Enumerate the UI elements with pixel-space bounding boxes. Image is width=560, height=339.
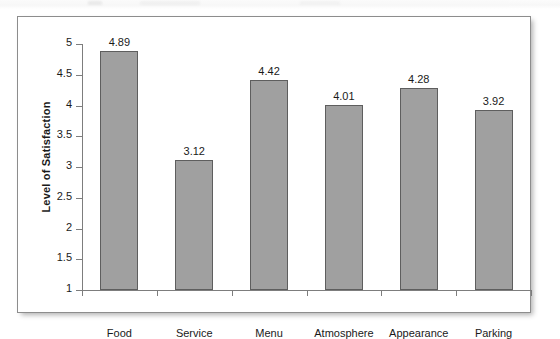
x-axis-category-label: Appearance — [389, 327, 448, 339]
x-axis-tick-mark — [381, 290, 382, 296]
y-axis-tick-label: 2 — [66, 221, 72, 233]
bar[interactable] — [400, 88, 438, 290]
y-axis-tick-label: 1.5 — [57, 251, 72, 263]
bar-group: 3.92Parking — [456, 44, 531, 290]
x-axis-tick-mark — [157, 290, 158, 296]
bar-chart-plot-area: Level of Satisfaction 11.522.533.544.55 … — [18, 17, 530, 312]
scan-artifact-strip — [0, 0, 560, 9]
bar[interactable] — [325, 105, 363, 290]
x-axis-category-label: Parking — [475, 327, 512, 339]
bar-group: 4.28Appearance — [381, 44, 456, 290]
y-axis-tick-label: 1 — [66, 282, 72, 294]
bar[interactable] — [100, 51, 138, 290]
y-axis-tick-label: 3.5 — [57, 128, 72, 140]
x-axis-tick-mark — [456, 290, 457, 296]
bar-group: 4.42Menu — [232, 44, 307, 290]
y-axis-tick-label: 4.5 — [57, 67, 72, 79]
bar-value-label: 4.89 — [109, 36, 130, 48]
bar-group: 3.12Service — [157, 44, 232, 290]
x-axis-category-label: Menu — [255, 327, 283, 339]
y-axis-tick-label: 5 — [66, 36, 72, 48]
bar[interactable] — [250, 80, 288, 290]
bar-value-label: 3.12 — [184, 145, 205, 157]
bar-value-label: 3.92 — [483, 95, 504, 107]
bar-group: 4.89Food — [82, 44, 157, 290]
bar-value-label: 4.01 — [333, 90, 354, 102]
figure-frame: Level of Satisfaction 11.522.533.544.55 … — [17, 16, 531, 313]
y-axis-tick-label: 3 — [66, 159, 72, 171]
bar-value-label: 4.28 — [408, 73, 429, 85]
x-axis-category-label: Service — [176, 327, 213, 339]
x-axis-tick-mark — [307, 290, 308, 296]
y-axis-tick-label: 2.5 — [57, 190, 72, 202]
x-axis-tick-mark — [232, 290, 233, 296]
bar-value-label: 4.42 — [258, 65, 279, 77]
y-axis-tick-label: 4 — [66, 98, 72, 110]
x-axis-tick-mark — [82, 290, 83, 296]
x-axis-category-label: Atmosphere — [314, 327, 373, 339]
bar[interactable] — [475, 110, 513, 290]
y-axis-title: Level of Satisfaction — [40, 57, 52, 257]
x-axis-tick-mark — [531, 290, 532, 296]
bar[interactable] — [175, 160, 213, 290]
bar-group: 4.01Atmosphere — [307, 44, 382, 290]
x-axis-category-label: Food — [107, 327, 132, 339]
